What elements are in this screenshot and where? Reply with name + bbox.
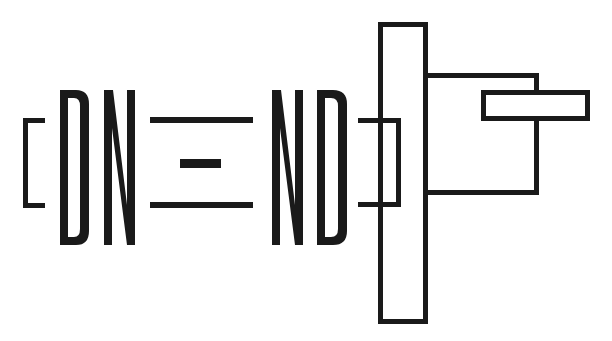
letter-D-right <box>317 90 347 245</box>
letter-N-left <box>104 90 135 245</box>
equals-top-line <box>150 117 253 123</box>
center-dash <box>180 159 221 168</box>
c-arm-lower <box>428 119 537 193</box>
coupling-diagram <box>0 0 612 341</box>
equals-bottom-line <box>150 202 253 208</box>
horizontal-bar <box>484 93 588 119</box>
c-arm <box>428 76 537 93</box>
tall-flange <box>381 25 426 322</box>
left-bracket <box>23 118 45 208</box>
letter-D-left <box>60 90 89 245</box>
letter-N-right <box>272 90 303 245</box>
